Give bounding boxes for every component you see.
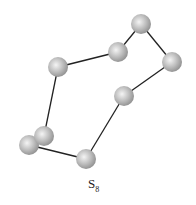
atoms [19,14,182,169]
sulfur-atom [48,57,68,77]
sulfur-atom [34,126,54,146]
bond [86,96,124,159]
bond [44,67,58,136]
molecule-label: S8 [88,176,99,194]
sulfur-atom [114,86,134,106]
sulfur-atom [108,42,128,62]
sulfur-atom [76,149,96,169]
sulfur-atom [162,52,182,72]
sulfur-atom [131,14,151,34]
s8-ring-diagram [0,0,196,205]
